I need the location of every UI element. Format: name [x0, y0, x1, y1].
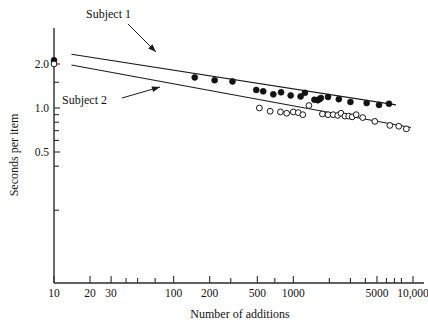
- series-label-subject-2: Subject 2: [62, 93, 107, 107]
- x-tick-label-1000: 1000: [282, 287, 305, 299]
- data-point: [372, 118, 378, 124]
- x-tick-label-30: 30: [105, 287, 117, 299]
- x-tick-label-10000: 10,000: [397, 287, 428, 300]
- data-point: [347, 99, 353, 105]
- data-point: [306, 103, 312, 109]
- data-point: [320, 111, 326, 117]
- x-tick-label-100: 100: [165, 287, 183, 299]
- y-axis-title: Seconds per item: [7, 113, 21, 196]
- data-point: [253, 87, 259, 93]
- leader-arrow-subject-1: [128, 24, 156, 52]
- data-point: [278, 109, 284, 115]
- x-tick-label-20: 20: [84, 287, 96, 299]
- data-point: [318, 95, 324, 101]
- series-label-subject-1: Subject 1: [86, 7, 131, 21]
- data-point: [284, 110, 290, 116]
- x-tick-label-5000: 5000: [365, 287, 388, 299]
- y-axis-tick-marks: [54, 64, 60, 210]
- y-tick-label-0-5: 0.5: [35, 146, 50, 158]
- data-point: [300, 112, 306, 118]
- data-point: [360, 115, 366, 121]
- chart-figure: 2.01.00.5 1020301002005001000500010,000 …: [0, 0, 428, 329]
- data-point: [267, 108, 273, 114]
- data-point: [302, 90, 308, 96]
- scatter-plot-canvas: 2.01.00.5 1020301002005001000500010,000 …: [0, 0, 428, 329]
- data-point: [229, 78, 235, 84]
- x-tick-label-200: 200: [201, 287, 219, 299]
- data-point: [364, 100, 370, 106]
- data-point: [376, 102, 382, 108]
- y-tick-label-1: 1.0: [35, 102, 50, 114]
- x-axis-title: Number of additions: [190, 307, 290, 321]
- data-point: [260, 88, 266, 94]
- leader-arrow-subject-2: [122, 86, 160, 98]
- data-point: [192, 74, 198, 80]
- arrowhead-subject-2: [152, 86, 160, 92]
- x-axis-tick-labels: 1020301002005001000500010,000: [48, 287, 428, 300]
- data-point: [403, 126, 409, 132]
- y-tick-label-2: 2.0: [35, 58, 50, 70]
- y-axis-tick-labels: 2.01.00.5: [35, 58, 50, 158]
- data-point: [325, 94, 331, 100]
- data-point: [51, 61, 57, 67]
- annotation-leaders: [122, 24, 160, 98]
- data-point: [288, 92, 294, 98]
- x-tick-label-500: 500: [249, 287, 267, 299]
- data-point: [336, 96, 342, 102]
- data-point: [387, 123, 393, 129]
- data-point: [386, 101, 392, 107]
- data-point: [256, 105, 262, 111]
- x-axis-tick-marks: [54, 276, 413, 283]
- x-tick-label-10: 10: [48, 287, 60, 299]
- data-point: [270, 91, 276, 97]
- data-point: [353, 112, 359, 118]
- data-point: [396, 123, 402, 129]
- data-point: [278, 89, 284, 95]
- data-point: [212, 77, 218, 83]
